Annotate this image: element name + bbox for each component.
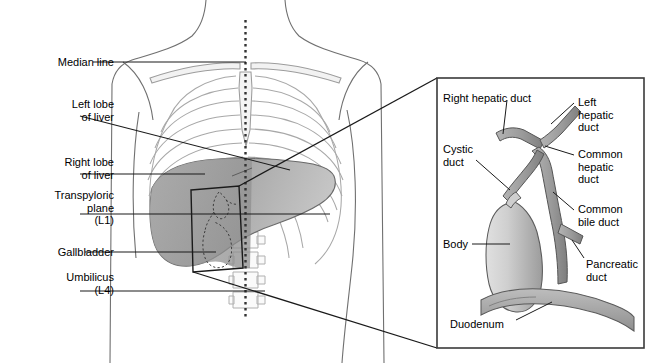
anatomy-figure: Median line Left lobe of liver Right lob… — [0, 0, 654, 363]
anatomy-illustration — [0, 0, 654, 363]
panel-label-right-hepatic-duct: Right hepatic duct — [443, 92, 531, 105]
left-label-umbilicus: Umbilicus (L4) — [18, 271, 114, 296]
panel-label-pancreatic-duct: Pancreatic duct — [586, 258, 638, 283]
panel-label-cystic-duct: Cystic duct — [443, 143, 473, 168]
left-label-gallbladder: Gallbladder — [18, 246, 114, 259]
left-label-right-lobe: Right lobe of liver — [18, 156, 114, 181]
panel-label-common-bile-duct: Common bile duct — [578, 203, 623, 228]
panel-label-duodenum: Duodenum — [450, 318, 504, 331]
panel-label-body: Body — [443, 238, 468, 251]
left-label-left-lobe: Left lobe of liver — [18, 98, 114, 123]
panel-label-common-hepatic-duct: Common hepatic duct — [578, 148, 623, 186]
panel-label-left-hepatic-duct: Left hepatic duct — [578, 96, 613, 134]
left-label-median-line: Median line — [18, 56, 114, 69]
left-label-transpyloric-plane: Transpyloric plane (L1) — [8, 189, 114, 227]
magnifier-line-bottom — [193, 272, 437, 348]
